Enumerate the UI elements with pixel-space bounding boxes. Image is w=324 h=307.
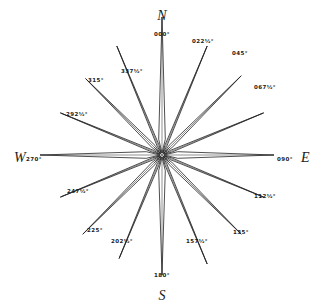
bearing-label: 135° — [233, 229, 249, 235]
bearing-label: 067½° — [254, 84, 276, 90]
ray-spine — [164, 113, 264, 154]
bearing-label: 225° — [87, 227, 103, 233]
ray-spine — [164, 156, 264, 197]
bearing-label: 292½° — [66, 111, 88, 117]
ray-spine — [163, 156, 241, 234]
bearing-label: 045° — [232, 50, 248, 56]
bearing-label: 247½° — [67, 188, 89, 194]
ray-spine — [86, 79, 161, 154]
cardinal-w: W — [14, 150, 27, 165]
bearing-label: 337½° — [121, 68, 143, 74]
ray-spine — [60, 113, 160, 154]
ray-spine — [163, 157, 207, 264]
bearing-label: 315° — [88, 77, 104, 83]
ray-spine — [117, 46, 161, 153]
cardinal-s: S — [159, 288, 166, 303]
bearing-label: 090° — [277, 156, 293, 162]
cardinal-n: N — [156, 8, 167, 23]
bearing-label: 112½° — [254, 193, 276, 199]
bearing-label: 022½° — [192, 38, 214, 44]
bearing-label: 000° — [154, 31, 170, 37]
cardinal-e: E — [300, 150, 310, 165]
compass-rose: 000°022½°045°067½°090°112½°135°157½°180°… — [0, 0, 324, 307]
bearing-label: 202½° — [111, 238, 133, 244]
ray-spine — [163, 46, 207, 153]
bearing-label: 180° — [154, 272, 170, 278]
bearing-label: 270° — [26, 156, 42, 162]
bearing-label: 157½° — [186, 238, 208, 244]
ray-spine — [83, 156, 161, 234]
ray-spine — [163, 76, 241, 154]
